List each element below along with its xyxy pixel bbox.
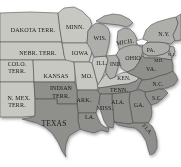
label-nj: N.J. xyxy=(168,52,176,57)
label-colo-line2: TERR. xyxy=(8,68,26,74)
label-ark: ARK. xyxy=(77,97,92,103)
label-tenn: TENN. xyxy=(110,87,129,93)
label-colo-line1: COLO. xyxy=(8,61,27,67)
label-va: VA. xyxy=(146,66,156,72)
label-mo: MO. xyxy=(81,73,93,79)
label-nc: N.C. xyxy=(153,81,164,87)
label-sc: S.C. xyxy=(152,95,163,101)
map-canvas: DAKOTA TERR. MINN. WIS. MICH. N.Y. NEBR.… xyxy=(0,0,181,167)
label-ala: ALA. xyxy=(111,99,125,105)
label-texas: TEXAS xyxy=(42,119,67,128)
label-nmex-line1: N. MEX. xyxy=(7,95,31,101)
label-md: MD. xyxy=(154,58,163,63)
label-ind: IND. xyxy=(110,61,122,67)
label-nebr-terr: NEBR. TERR. xyxy=(19,50,57,56)
label-ny: N.Y. xyxy=(158,31,170,37)
label-miss: MISS. xyxy=(97,105,114,111)
label-kansas: KANSAS xyxy=(44,73,69,79)
label-indian-line2: TERR. xyxy=(52,93,70,99)
label-ohio: OHIO xyxy=(125,55,141,61)
label-ill: ILL. xyxy=(96,60,108,66)
map-body: DAKOTA TERR. MINN. WIS. MICH. N.Y. NEBR.… xyxy=(0,7,181,157)
label-la: LA. xyxy=(85,114,95,120)
label-minn: MINN. xyxy=(66,24,85,30)
label-ken: KEN. xyxy=(117,75,131,81)
label-nmex-line2: TERR. xyxy=(8,102,26,108)
label-pa: PA. xyxy=(147,47,156,53)
label-indian-line1: INDIAN xyxy=(50,85,73,91)
label-dakota-terr: DAKOTA TERR. xyxy=(11,27,56,33)
label-ga: GA. xyxy=(134,102,145,108)
historical-us-map: DAKOTA TERR. MINN. WIS. MICH. N.Y. NEBR.… xyxy=(0,0,181,167)
label-wis: WIS. xyxy=(93,35,106,41)
label-iowa: IOWA xyxy=(72,50,89,56)
